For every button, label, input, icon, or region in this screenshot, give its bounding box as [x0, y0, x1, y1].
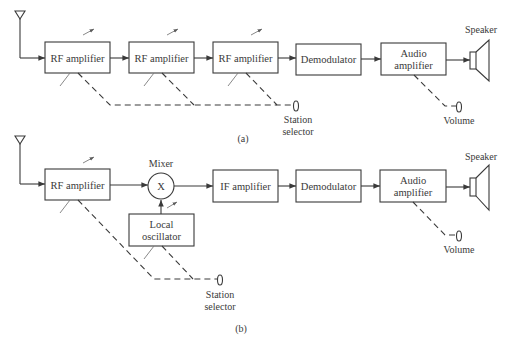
if-amplifier-label: IF amplifier	[220, 181, 271, 192]
station-selector-label-line2: selector	[204, 301, 236, 312]
demodulator-label: Demodulator	[301, 181, 357, 192]
rf-amplifier-1-block: RF amplifier	[45, 29, 110, 86]
speaker-icon	[470, 40, 489, 81]
tuning-arrow-icon	[167, 29, 178, 35]
speaker-icon	[470, 165, 489, 210]
tuning-arrow-icon	[83, 29, 94, 35]
diagram-a: RF amplifier RF amplifier RF amplifier D…	[15, 11, 498, 145]
volume-linkage	[413, 202, 456, 235]
audio-amplifier-block: Audio amplifier	[380, 170, 446, 202]
tuning-arrow-icon	[83, 157, 94, 163]
mixer-block: X	[148, 173, 174, 199]
mixer-label: Mixer	[149, 158, 174, 169]
demodulator-block: Demodulator	[296, 170, 361, 202]
rf-amplifier-1-label: RF amplifier	[51, 53, 105, 64]
audio-amplifier-block: Audio amplifier	[381, 43, 446, 75]
volume-knob[interactable]	[457, 102, 462, 112]
local-oscillator-label-line1: Local	[150, 219, 174, 230]
rf-amplifier-3-block: RF amplifier	[213, 29, 278, 86]
mixer-symbol: X	[157, 181, 165, 192]
volume-label: Volume	[444, 115, 475, 126]
station-selector-knob[interactable]	[218, 275, 223, 285]
tuning-stub-icon	[144, 73, 154, 86]
caption-b: (b)	[235, 323, 247, 335]
if-amplifier-block: IF amplifier	[213, 170, 278, 202]
diagram-b: RF amplifier X Mixer Local oscillator IF…	[15, 136, 498, 335]
speaker-label: Speaker	[465, 151, 498, 162]
station-selector-label-line2: selector	[282, 126, 314, 137]
audio-amplifier-label-line2: amplifier	[394, 187, 433, 198]
caption-a: (a)	[237, 133, 248, 145]
demodulator-label: Demodulator	[301, 54, 357, 65]
station-selector-knob[interactable]	[294, 101, 299, 111]
station-selector-linkage	[78, 73, 293, 105]
tuning-arrow-icon	[167, 202, 177, 208]
tuning-stub-icon	[144, 246, 154, 259]
local-oscillator-label-line2: oscillator	[142, 231, 182, 242]
tuning-stub-icon	[60, 200, 70, 213]
audio-amplifier-label-line2: amplifier	[394, 60, 433, 71]
volume-knob[interactable]	[457, 231, 462, 241]
rf-amplifier-3-label: RF amplifier	[219, 53, 273, 64]
audio-amplifier-label-line1: Audio	[400, 48, 426, 59]
antenna-icon	[15, 136, 45, 184]
tuning-stub-icon	[60, 73, 70, 86]
demodulator-block: Demodulator	[296, 44, 361, 75]
station-selector-label-line1: Station	[206, 289, 234, 300]
tuning-arrow-icon	[251, 29, 262, 35]
rf-amplifier-label: RF amplifier	[51, 180, 105, 191]
radio-receiver-block-diagrams: RF amplifier RF amplifier RF amplifier D…	[0, 0, 509, 348]
tuning-stub-icon	[228, 73, 238, 86]
rf-amplifier-block: RF amplifier	[45, 157, 110, 213]
antenna-icon	[15, 11, 45, 58]
speaker-label: Speaker	[465, 24, 498, 35]
volume-linkage	[414, 75, 456, 106]
volume-label: Volume	[444, 244, 475, 255]
station-selector-label-line1: Station	[284, 114, 312, 125]
rf-amplifier-2-label: RF amplifier	[135, 53, 189, 64]
rf-amplifier-2-block: RF amplifier	[129, 29, 194, 86]
audio-amplifier-label-line1: Audio	[400, 175, 426, 186]
